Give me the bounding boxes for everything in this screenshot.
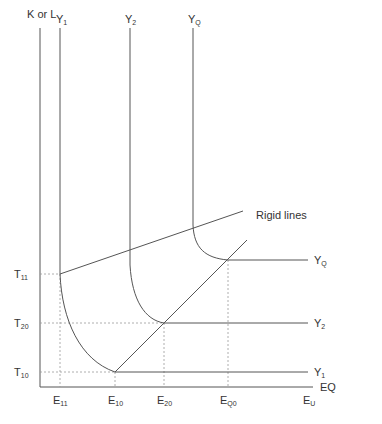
curve-right-label-y1: Y1 (314, 366, 325, 379)
y-tick-t20: T20 (14, 317, 29, 330)
rigid-line-upper (60, 211, 243, 274)
curve-top-label-yq: YQ (188, 13, 201, 27)
rigid-line-expansion (115, 240, 247, 372)
isoquant-y1 (60, 28, 308, 372)
isoquants (60, 28, 308, 372)
isoquant-y2 (130, 28, 308, 323)
rigid-lines-annotation: Rigid lines (256, 209, 307, 221)
y-axis-label: K or L (27, 8, 56, 20)
y-tick-t10: T10 (14, 366, 29, 379)
x-axis-label: EQ (320, 381, 336, 393)
isoquant-diagram: K or L EQ Y1 Y2 YQ YQ Y2 Y1 Rigid lines … (0, 0, 382, 424)
y-tick-t11: T11 (14, 268, 28, 281)
isoquant-yq (193, 28, 308, 260)
curve-top-label-y2: Y2 (125, 13, 136, 26)
curve-right-label-y2: Y2 (314, 317, 325, 330)
curve-right-label-yq: YQ (314, 254, 327, 268)
x-tick-e10: E10 (108, 394, 123, 407)
curve-top-label-y1: Y1 (56, 13, 67, 26)
x-tick-e11: E11 (53, 394, 68, 407)
x-tick-eq0: EQ0 (220, 394, 237, 408)
x-tick-eu: EU (303, 394, 315, 407)
x-tick-e20: E20 (157, 394, 172, 407)
